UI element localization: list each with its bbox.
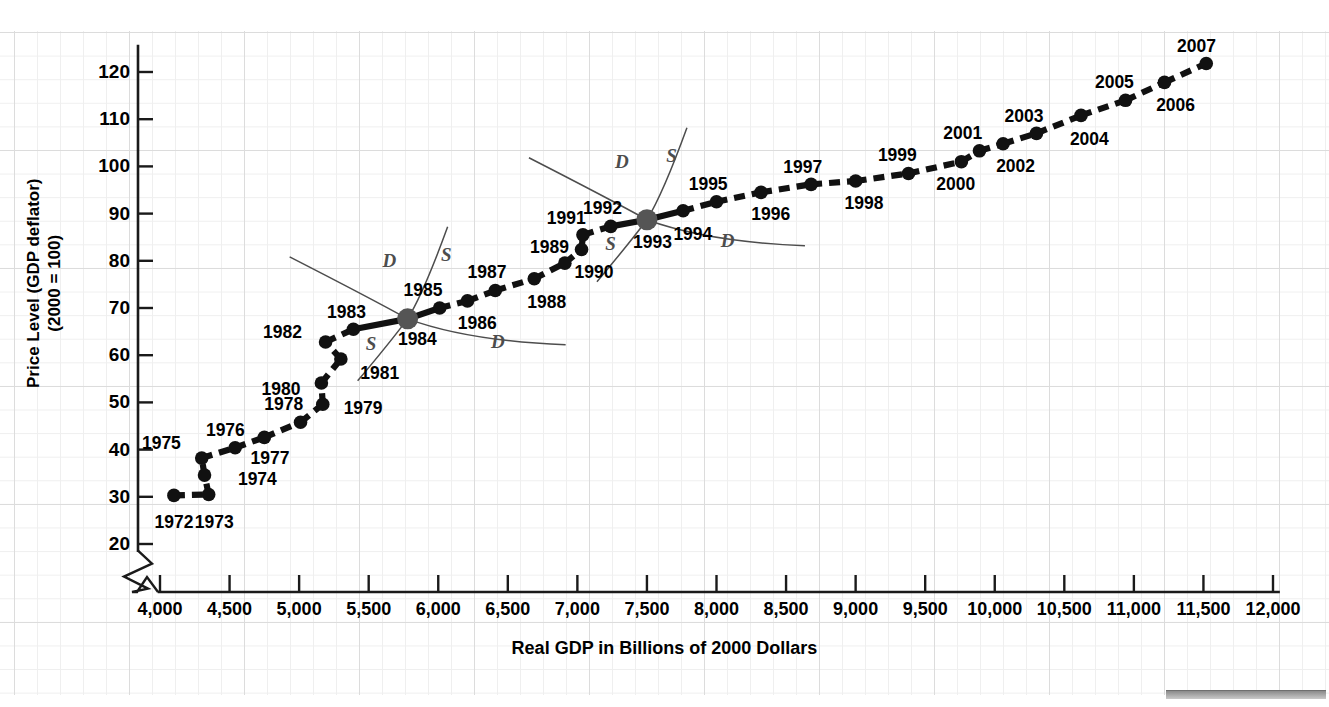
x-axis-title: Real GDP in Billions of 2000 Dollars [0, 638, 1329, 659]
curve-annotation-label: D [615, 152, 629, 171]
data-point-label: 1994 [633, 226, 753, 244]
data-point-label: 1990 [534, 264, 654, 282]
line-segment [761, 184, 811, 192]
bottom-right-scrollbar-artifact[interactable] [1166, 690, 1326, 699]
y-axis-tick-label: 110 [46, 109, 130, 128]
data-point-marker[interactable] [804, 178, 818, 192]
data-point-marker[interactable] [195, 451, 209, 465]
curve-annotation-label: D [383, 251, 397, 270]
curve-annotation-label: D [491, 332, 505, 351]
data-point-label: 1985 [363, 282, 483, 300]
data-point-label: 2003 [964, 108, 1084, 126]
chart-page: 20304050607080901001101204,0004,5005,000… [0, 0, 1329, 707]
data-point-label: 1983 [286, 304, 406, 322]
data-connecting-line [174, 64, 1206, 496]
data-point-label: 1979 [344, 400, 383, 418]
data-point-label: 1975 [0, 435, 181, 453]
data-point-label: 1973 [154, 514, 274, 532]
data-point-label: 2001 [903, 125, 1023, 143]
curve-annotation-label: S [605, 234, 616, 253]
data-point-label: 1986 [417, 315, 537, 333]
curve-annotation-label: S [366, 334, 377, 353]
y-axis-tick-label: 120 [46, 62, 130, 81]
data-point-label: 2005 [1054, 74, 1174, 92]
data-point-label: 1977 [210, 450, 330, 468]
data-point-label: 1981 [360, 365, 399, 383]
data-point-marker[interactable] [294, 415, 308, 429]
data-point-label: 2002 [956, 158, 1076, 176]
x-axis-tick-label: 12,000 [1223, 600, 1323, 618]
data-point-label: 1988 [487, 294, 607, 312]
y-axis-tick-label: 20 [46, 534, 130, 553]
data-point-label: 1974 [238, 471, 277, 489]
data-point-marker[interactable] [202, 488, 216, 502]
data-point-label: 2000 [896, 176, 1016, 194]
data-point-label: 1999 [837, 147, 957, 165]
data-point-marker[interactable] [319, 335, 333, 349]
data-point-marker[interactable] [167, 489, 181, 503]
data-point-marker[interactable] [198, 468, 212, 482]
data-point-marker[interactable] [315, 376, 329, 390]
data-point-label: 1995 [648, 176, 768, 194]
curve-annotation-label: D [721, 231, 735, 250]
data-point-label: 1976 [165, 422, 285, 440]
data-point-label: 2006 [1116, 97, 1236, 115]
data-point-label: 2004 [1029, 131, 1149, 149]
data-point-label: 1992 [542, 200, 662, 218]
curve-annotation-label: S [441, 245, 452, 264]
data-point-marker[interactable] [1199, 57, 1213, 71]
data-point-marker[interactable] [676, 204, 690, 218]
data-point-marker[interactable] [973, 144, 987, 158]
curve-annotation-label: S [666, 146, 677, 165]
axis-break-zigzag [124, 551, 158, 592]
data-point-marker[interactable] [334, 352, 348, 366]
y-axis-title: Price Level (GDP deflator) (2000 = 100) [23, 153, 66, 413]
data-point-marker[interactable] [433, 301, 447, 315]
data-point-label: 2007 [1136, 38, 1256, 56]
y-axis-tick-label: 30 [46, 487, 130, 506]
data-point-label: 1987 [427, 264, 547, 282]
data-point-label: 1998 [804, 195, 924, 213]
